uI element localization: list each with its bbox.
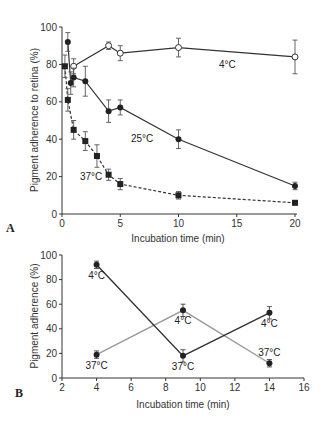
panel-b-x-tick-label: 16 [298, 382, 310, 393]
data-point-filled-square [117, 181, 123, 187]
panel-a-label: A [6, 221, 15, 235]
annotation-4c: 4°C [219, 59, 236, 70]
data-point-filled-square [82, 138, 88, 144]
panel-b-x-tick-label: 6 [128, 382, 134, 393]
panel-a-chart: 02040608010005101520 [40, 22, 301, 230]
panel-a-x-tick-label: 15 [231, 218, 243, 229]
panel-b-x-tick-label: 2 [59, 382, 65, 393]
data-point-filled-circle [68, 80, 74, 86]
data-point-filled-square [106, 172, 112, 178]
data-point [266, 310, 272, 316]
data-point [180, 353, 186, 359]
panel-b-x-tick-label: 14 [264, 382, 276, 393]
point-label: 4°C [88, 270, 105, 281]
panel-b-y-tick-label: 60 [46, 299, 58, 310]
data-point-filled-circle [176, 136, 182, 142]
point-label: 4°C [261, 318, 278, 329]
data-point [266, 360, 272, 366]
panel-a-y-tick-label: 0 [51, 209, 57, 220]
data-point [180, 307, 186, 313]
panel-b-y-axis-title: Pigment adherence (%) [29, 263, 40, 368]
panel-a-x-tick-label: 10 [173, 218, 185, 229]
panel-b-y-tick-label: 20 [46, 348, 58, 359]
annotation-25c: 25°C [131, 133, 153, 144]
point-label: 37°C [85, 360, 107, 371]
panel-b-y-tick-label: 40 [46, 323, 58, 334]
data-point-open-circle [292, 54, 298, 60]
data-point-filled-circle [71, 74, 77, 80]
panel-b-y-tick-label: 0 [51, 373, 57, 384]
point-label: 37°C [258, 347, 280, 358]
panel-a-x-axis-title: Incubation time (min) [131, 233, 224, 244]
panel-b-chart: 0204060801002468101214164°C37°C4°C37°C4°… [40, 250, 310, 394]
series-line-4C [74, 46, 295, 67]
panel-a-y-tick-label: 40 [46, 134, 58, 145]
panel-b-y-tick-label: 100 [40, 250, 57, 261]
data-point-filled-square [62, 63, 68, 69]
data-point-filled-square [176, 192, 182, 198]
panel-a-y-tick-label: 60 [46, 96, 58, 107]
data-point-filled-circle [106, 108, 112, 114]
series-line-25C [68, 42, 295, 186]
data-point-filled-square [65, 97, 71, 103]
panel-a-y-tick-label: 80 [46, 59, 58, 70]
data-point [94, 352, 100, 358]
panel-b-x-tick-label: 8 [163, 382, 169, 393]
panel-a-y-tick-label: 20 [46, 171, 58, 182]
annotation-37c: 37°C [80, 171, 102, 182]
panel-b-y-tick-label: 80 [46, 274, 58, 285]
figure: 02040608010005101520 0204060801002468101… [0, 0, 326, 423]
panel-a-x-tick-label: 0 [59, 218, 65, 229]
data-point-open-circle [117, 50, 123, 56]
point-label: 37°C [172, 361, 194, 372]
data-point-filled-circle [117, 104, 123, 110]
data-point-open-circle [176, 45, 182, 51]
data-point [94, 262, 100, 268]
panel-b-x-tick-label: 12 [229, 382, 241, 393]
panel-b-x-tick-label: 4 [94, 382, 100, 393]
series-line-37C [65, 66, 295, 203]
panel-a-y-axis-title: Pigment adherence to retina (%) [29, 48, 40, 192]
panel-a-x-tick-label: 5 [117, 218, 123, 229]
data-point-filled-circle [82, 78, 88, 84]
data-point-filled-square [94, 153, 100, 159]
point-label: 4°C [175, 315, 192, 326]
data-point-open-circle [106, 43, 112, 49]
panel-b-x-axis-title: Incubation time (min) [136, 399, 229, 410]
panel-a-x-tick-label: 20 [289, 218, 301, 229]
data-point-filled-circle [292, 183, 298, 189]
data-point-filled-square [292, 200, 298, 206]
panel-b-x-tick-label: 10 [195, 382, 207, 393]
panel-a-y-tick-label: 100 [40, 22, 57, 33]
data-point-filled-circle [65, 39, 71, 45]
data-point-filled-square [71, 127, 77, 133]
panel-b-label: B [15, 386, 23, 400]
